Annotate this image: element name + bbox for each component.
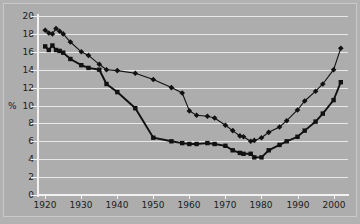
series-layer bbox=[0, 0, 360, 224]
data-point-diamond bbox=[187, 108, 193, 114]
data-point-square bbox=[252, 155, 256, 159]
data-point-diamond bbox=[115, 68, 121, 74]
data-point-square bbox=[115, 90, 119, 94]
data-point-square bbox=[231, 148, 235, 152]
data-point-square bbox=[151, 136, 155, 140]
data-point-diamond bbox=[205, 113, 211, 119]
series-line-upper-series bbox=[45, 29, 341, 142]
chart-root: 02468101214161820 % 19201930194019501960… bbox=[0, 0, 360, 224]
data-point-square bbox=[180, 141, 184, 145]
data-point-square bbox=[97, 68, 101, 72]
y-axis-tick bbox=[31, 106, 37, 107]
y-axis-tick bbox=[31, 177, 37, 178]
data-point-square bbox=[313, 119, 317, 123]
data-point-square bbox=[303, 128, 307, 132]
data-point-square bbox=[61, 51, 65, 55]
y-axis-tick bbox=[31, 16, 37, 17]
data-point-square bbox=[205, 141, 209, 145]
data-point-square bbox=[50, 43, 54, 47]
y-axis-tick bbox=[31, 123, 37, 124]
y-axis-tick bbox=[31, 141, 37, 142]
data-point-square bbox=[285, 139, 289, 143]
data-point-square bbox=[295, 135, 299, 139]
data-point-square bbox=[68, 57, 72, 61]
data-point-diamond bbox=[169, 85, 175, 91]
data-point-square bbox=[321, 111, 325, 115]
y-axis-tick bbox=[31, 70, 37, 71]
data-point-square bbox=[267, 148, 271, 152]
data-point-diamond bbox=[338, 45, 344, 51]
data-point-diamond bbox=[194, 113, 200, 119]
data-point-square bbox=[133, 106, 137, 110]
data-point-square bbox=[241, 152, 245, 156]
y-axis-tick bbox=[31, 52, 37, 53]
data-point-square bbox=[259, 155, 263, 159]
data-point-square bbox=[104, 82, 108, 86]
data-point-square bbox=[277, 143, 281, 147]
data-point-square bbox=[79, 63, 83, 67]
data-point-square bbox=[212, 142, 216, 146]
data-point-square bbox=[169, 139, 173, 143]
data-point-square bbox=[331, 98, 335, 102]
y-axis-tick bbox=[31, 88, 37, 89]
data-point-square bbox=[194, 142, 198, 146]
data-point-square bbox=[86, 66, 90, 70]
data-point-square bbox=[47, 48, 51, 52]
data-point-square bbox=[223, 144, 227, 148]
y-axis-tick bbox=[31, 195, 37, 196]
series-line-lower-series bbox=[45, 46, 341, 158]
data-point-diamond bbox=[133, 71, 139, 77]
y-axis-tick bbox=[31, 34, 37, 35]
y-axis-tick bbox=[31, 159, 37, 160]
data-point-square bbox=[339, 80, 343, 84]
data-point-square bbox=[187, 142, 191, 146]
data-point-diamond bbox=[179, 90, 185, 96]
data-point-diamond bbox=[151, 77, 157, 83]
